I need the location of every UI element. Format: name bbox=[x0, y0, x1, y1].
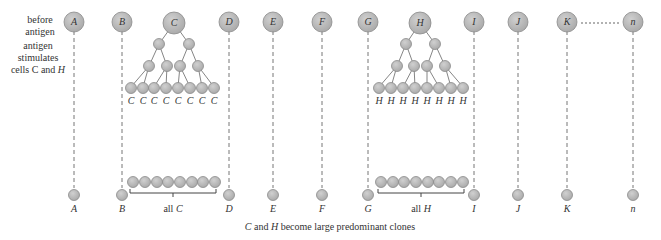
cell-label-e: E bbox=[268, 16, 278, 28]
cell-label-i: I bbox=[469, 16, 479, 28]
bottom-label-k: K bbox=[562, 203, 572, 215]
label-line: cells C and H bbox=[8, 64, 68, 76]
bottom-label-b: B bbox=[117, 203, 127, 215]
leaf-label-h: H bbox=[386, 95, 396, 107]
leaf-label-h: H bbox=[446, 95, 456, 107]
cell-label-n: n bbox=[628, 16, 638, 28]
t: cells bbox=[11, 64, 32, 75]
cell-label-d: D bbox=[224, 16, 234, 28]
cell-label-c: C bbox=[169, 17, 179, 29]
leaf-label-c: C bbox=[173, 95, 183, 107]
label-line: before bbox=[18, 14, 62, 26]
cell-label-f: F bbox=[317, 16, 327, 28]
t: and bbox=[38, 64, 57, 75]
leaf-label-c: C bbox=[126, 95, 136, 107]
label-line: stimulates bbox=[8, 52, 68, 64]
leaf-label-h: H bbox=[434, 95, 444, 107]
t: all bbox=[163, 203, 176, 214]
dashed-lines bbox=[74, 31, 633, 188]
bottom-label-a: A bbox=[69, 203, 79, 215]
label-line: antigen bbox=[8, 40, 68, 52]
leaf-label-c: C bbox=[161, 95, 171, 107]
leaf-label-c: C bbox=[209, 95, 219, 107]
leaf-label-c: C bbox=[197, 95, 207, 107]
caption: C and H become large predominant clones bbox=[180, 221, 480, 233]
t: and bbox=[251, 221, 270, 232]
bottom-label-e: E bbox=[268, 203, 278, 215]
leaf-label-h: H bbox=[374, 95, 384, 107]
t: H bbox=[424, 203, 431, 214]
bottom-label-i: I bbox=[469, 203, 479, 215]
cell-label-h: H bbox=[415, 17, 425, 29]
bottom-label-d: D bbox=[224, 203, 234, 215]
cell-label-a: A bbox=[69, 16, 79, 28]
leaf-label-c: C bbox=[138, 95, 148, 107]
before-antigen-label: before antigen bbox=[18, 14, 62, 38]
leaf-label-h: H bbox=[422, 95, 432, 107]
label-line: antigen bbox=[18, 26, 62, 38]
cell-label-k: K bbox=[562, 16, 572, 28]
leaf-label-c: C bbox=[185, 95, 195, 107]
t: become large predominant clones bbox=[278, 221, 415, 232]
bottom-label-f: F bbox=[317, 203, 327, 215]
cell-label-j: J bbox=[513, 16, 523, 28]
leaf-label-h: H bbox=[398, 95, 408, 107]
all-c-label: all C bbox=[153, 203, 193, 215]
all-h-label: all H bbox=[401, 203, 441, 215]
bottom-label-n: n bbox=[628, 203, 638, 215]
brackets bbox=[130, 189, 464, 197]
leaf-label-c: C bbox=[149, 95, 159, 107]
bottom-label-j: J bbox=[513, 203, 523, 215]
t: H bbox=[58, 64, 65, 75]
cell-label-g: G bbox=[363, 16, 373, 28]
bottom-label-g: G bbox=[363, 203, 373, 215]
t: C bbox=[176, 203, 183, 214]
leaf-label-h: H bbox=[458, 95, 468, 107]
t: all bbox=[411, 203, 424, 214]
antigen-stimulates-label: antigen stimulates cells C and H bbox=[8, 40, 68, 76]
leaf-label-h: H bbox=[410, 95, 420, 107]
cell-label-b: B bbox=[117, 16, 127, 28]
